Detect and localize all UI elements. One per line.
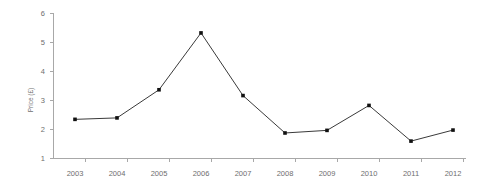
data-series-price (73, 31, 455, 143)
y-tick-label-5: 5 (41, 38, 45, 47)
data-point-2010 (367, 104, 371, 108)
y-tick-label-2: 2 (41, 125, 45, 134)
x-tick-label-2011: 2011 (403, 169, 419, 178)
series-line-price (75, 33, 453, 141)
x-tick-label-2007: 2007 (235, 169, 252, 178)
x-tick-label-2008: 2008 (277, 169, 294, 178)
x-tick-label-2012: 2012 (445, 169, 462, 178)
y-tick-label-6: 6 (41, 9, 45, 18)
data-point-2003 (73, 118, 77, 122)
data-point-2011 (409, 139, 413, 143)
x-tick-label-2003: 2003 (67, 169, 84, 178)
y-tick-label-3: 3 (41, 96, 45, 105)
x-axis-tick-labels: 2003 2004 2005 2006 2007 2008 2009 2010 … (67, 169, 462, 178)
y-axis-ticks (50, 14, 54, 159)
series-markers-price (73, 31, 455, 143)
y-axis-title: Price (£) (27, 88, 35, 113)
y-tick-label-4: 4 (41, 67, 45, 76)
x-tick-label-2009: 2009 (319, 169, 336, 178)
data-point-2008 (283, 131, 287, 135)
y-tick-label-1: 1 (41, 154, 45, 163)
y-axis: 6 5 4 3 2 1 Price (£) (27, 9, 54, 163)
x-tick-label-2010: 2010 (361, 169, 378, 178)
data-point-2006 (199, 31, 203, 35)
x-tick-label-2005: 2005 (151, 169, 168, 178)
x-axis: 2003 2004 2005 2006 2007 2008 2009 2010 … (54, 159, 467, 179)
x-tick-label-2006: 2006 (193, 169, 210, 178)
data-point-2007 (241, 94, 245, 98)
line-chart: 6 5 4 3 2 1 Price (£) (0, 0, 496, 189)
data-point-2012 (451, 128, 455, 132)
data-point-2009 (325, 129, 329, 133)
data-point-2004 (115, 116, 119, 120)
x-tick-label-2004: 2004 (109, 169, 126, 178)
chart-canvas: 6 5 4 3 2 1 Price (£) (0, 0, 496, 189)
data-point-2005 (157, 88, 161, 92)
x-axis-ticks (86, 159, 464, 163)
y-axis-tick-labels: 6 5 4 3 2 1 (41, 9, 45, 163)
